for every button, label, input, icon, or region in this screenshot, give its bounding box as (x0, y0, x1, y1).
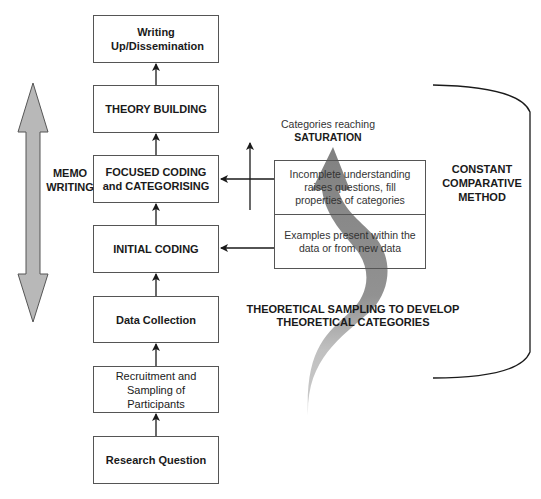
box-recruitment: Recruitment and Sampling of Participants (93, 366, 219, 413)
saturation-prefix: Categories reaching (258, 118, 398, 131)
box-initial-coding: INITIAL CODING (93, 225, 219, 273)
box-initial-coding-label: INITIAL CODING (113, 242, 198, 256)
diagram-graphics (0, 0, 541, 499)
box-research-question-label: Research Question (106, 453, 206, 467)
saturation-label: Categories reaching SATURATION (258, 118, 398, 144)
box-focused-coding: FOCUSED CODING and CATEGORISING (93, 155, 219, 203)
theoretical-sampling-label: THEORETICAL SAMPLING TO DEVELOP THEORETI… (240, 303, 466, 329)
memo-writing-label: MEMO WRITING (42, 166, 98, 194)
constant-comparative-label: CONSTANT COMPARATIVE METHOD (440, 162, 524, 204)
constant-comparative-bracket (433, 85, 530, 378)
box-data-collection-label: Data Collection (116, 313, 196, 327)
feedback-box-incomplete-label: Incomplete understanding raises question… (286, 168, 414, 207)
box-theory-building-label: THEORY BUILDING (105, 102, 206, 116)
box-data-collection: Data Collection (93, 296, 219, 343)
feedback-box-incomplete: Incomplete understanding raises question… (274, 160, 426, 215)
box-recruitment-label: Recruitment and Sampling of Participants (97, 369, 215, 411)
saturation-text: SATURATION (258, 131, 398, 144)
box-focused-coding-label: FOCUSED CODING and CATEGORISING (95, 165, 217, 193)
box-theory-building: THEORY BUILDING (93, 85, 219, 133)
feedback-box-examples-label: Examples present within the data or from… (283, 229, 417, 255)
box-research-question: Research Question (93, 436, 219, 484)
feedback-arrows (221, 143, 274, 248)
memo-double-arrow-icon (18, 83, 48, 322)
box-writing-up: Writing Up/Dissemination (93, 15, 219, 63)
feedback-box-examples: Examples present within the data or from… (274, 214, 426, 269)
box-writing-up-label: Writing Up/Dissemination (111, 25, 201, 53)
